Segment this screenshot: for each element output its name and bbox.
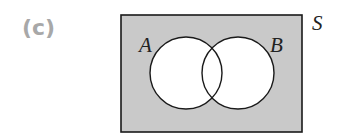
- universe-label: S: [312, 11, 323, 35]
- venn-diagram: A B S: [0, 0, 339, 134]
- set-b-label: B: [270, 33, 283, 57]
- set-a-label: A: [137, 33, 152, 57]
